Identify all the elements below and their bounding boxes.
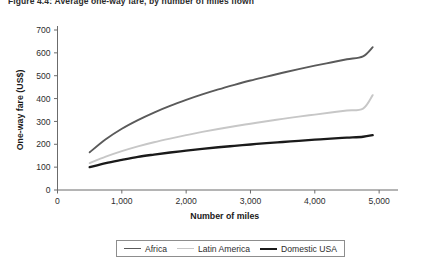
- y-axis-tick-label: 400: [36, 94, 51, 104]
- legend-label-africa: Africa: [145, 244, 167, 254]
- x-axis-title: Number of miles: [190, 211, 259, 221]
- y-axis-title: One-way fare (US$): [15, 70, 25, 151]
- legend-item-domestic-usa: Domestic USA: [260, 244, 337, 254]
- x-axis-tick-label: 1,000: [111, 196, 133, 206]
- series-line-latin-america: [90, 95, 373, 163]
- x-axis-tick-label: 3,000: [240, 196, 262, 206]
- x-axis-tick-label: 5,000: [368, 196, 390, 206]
- legend-swatch-domestic-usa: [260, 248, 277, 250]
- x-axis-tick-label: 2,000: [175, 196, 197, 206]
- chart-legend: Africa Latin America Domestic USA: [116, 240, 345, 257]
- legend-label-domestic-usa: Domestic USA: [281, 244, 337, 254]
- legend-label-latin-america: Latin America: [198, 244, 250, 254]
- line-chart-plot: 010020030040050060070001,0002,0003,0004,…: [0, 0, 428, 240]
- chart-figure: 010020030040050060070001,0002,0003,0004,…: [0, 0, 428, 270]
- legend-item-africa: Africa: [124, 244, 167, 254]
- legend-item-latin-america: Latin America: [177, 244, 250, 254]
- y-axis-tick-label: 300: [36, 117, 51, 127]
- y-axis-tick-label: 100: [36, 162, 51, 172]
- series-line-africa: [90, 47, 373, 152]
- y-axis-tick-label: 0: [46, 185, 51, 195]
- legend-swatch-latin-america: [177, 248, 194, 249]
- x-axis-tick-label: 0: [55, 196, 60, 206]
- series-line-domestic-usa: [90, 135, 373, 167]
- x-axis-tick-label: 4,000: [304, 196, 326, 206]
- legend-swatch-africa: [124, 248, 141, 249]
- y-axis-tick-label: 700: [36, 25, 51, 35]
- y-axis-tick-label: 500: [36, 71, 51, 81]
- y-axis-tick-label: 200: [36, 139, 51, 149]
- y-axis-tick-label: 600: [36, 48, 51, 58]
